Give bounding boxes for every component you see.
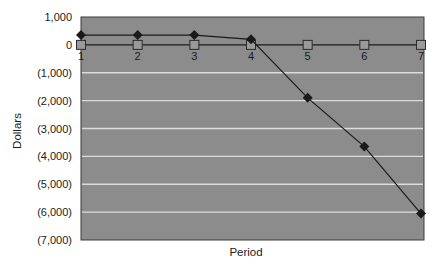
x-tick-label: 2 bbox=[135, 50, 141, 62]
y-tick-label: (3,000) bbox=[37, 123, 72, 135]
x-tick-label: 6 bbox=[361, 50, 367, 62]
y-axis-title: Dollars bbox=[11, 113, 23, 149]
y-tick-label: (4,000) bbox=[37, 150, 72, 162]
x-tick-label: 4 bbox=[248, 50, 254, 62]
x-tick-label: 3 bbox=[191, 50, 197, 62]
x-tick-label: 7 bbox=[418, 50, 424, 62]
x-tick-label: 1 bbox=[78, 50, 84, 62]
y-tick-label: (1,000) bbox=[37, 67, 72, 79]
x-tick-label: 5 bbox=[305, 50, 311, 62]
square-marker bbox=[360, 40, 369, 49]
x-axis-title: Period bbox=[229, 246, 262, 258]
square-marker bbox=[303, 40, 312, 49]
square-marker bbox=[77, 40, 86, 49]
y-axis-tick-labels: 1,0000(1,000)(2,000)(3,000)(4,000)(5,000… bbox=[37, 11, 72, 246]
y-tick-label: (7,000) bbox=[37, 234, 72, 246]
y-tick-label: (2,000) bbox=[37, 95, 72, 107]
y-tick-label: 0 bbox=[66, 39, 72, 51]
y-tick-label: (5,000) bbox=[37, 178, 72, 190]
y-tick-label: 1,000 bbox=[44, 11, 72, 23]
square-marker bbox=[133, 40, 142, 49]
y-tick-label: (6,000) bbox=[37, 206, 72, 218]
square-marker bbox=[417, 40, 426, 49]
square-marker bbox=[190, 40, 199, 49]
line-chart: 1,0000(1,000)(2,000)(3,000)(4,000)(5,000… bbox=[0, 0, 435, 270]
